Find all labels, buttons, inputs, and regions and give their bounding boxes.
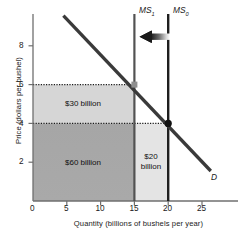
demand-curve-label: D (211, 172, 217, 182)
supply-demand-figure: 8 6 4 2 0 5 10 15 20 25 Price (dollars p… (0, 0, 241, 235)
supply-shift-arrow-icon (140, 30, 171, 43)
equilibrium-marker-restricted (131, 82, 137, 88)
x-tick-label-5: 5 (64, 204, 69, 213)
ms0-subscript: 0 (186, 11, 189, 17)
ms0-base-text: MS (173, 5, 186, 15)
region-label-20-billion: $20 billion (134, 152, 168, 171)
supply-curve-label-ms0: MS0 (173, 5, 189, 17)
equilibrium-marker-original (165, 120, 172, 127)
x-tick-label-25: 25 (197, 204, 206, 213)
supply-curve-label-ms1: MS1 (139, 5, 155, 17)
x-tick-label-20: 20 (163, 204, 172, 213)
x-tick-label-0: 0 (30, 204, 35, 213)
x-tick-label-15: 15 (130, 204, 139, 213)
region-label-60-billion: $60 billion (52, 158, 114, 168)
ms1-subscript: 1 (152, 11, 155, 17)
region-20-line1: $20 (144, 152, 157, 161)
chart-canvas (0, 0, 241, 235)
region-20-line2: billion (141, 162, 161, 171)
y-axis-title: Price (dollars per bushel) (14, 36, 23, 166)
x-axis-title: Quantity (billions of bushels per year) (36, 219, 241, 228)
ms1-base-text: MS (139, 5, 152, 15)
x-tick-label-10: 10 (96, 204, 105, 213)
region-label-30-billion: $30 billion (52, 99, 114, 109)
